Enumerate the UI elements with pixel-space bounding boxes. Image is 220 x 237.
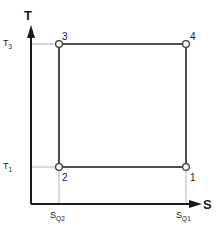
state-marker-2 <box>56 164 63 171</box>
tick-label-t1-sub: 1 <box>9 166 13 173</box>
s-axis-title: S <box>203 198 212 211</box>
guide-lines <box>31 44 186 204</box>
tick-label-t1-base: T <box>3 161 9 171</box>
state-marker-4 <box>183 41 190 48</box>
tick-label-sq2-sub: Q2 <box>56 215 65 222</box>
tick-label-t3: T3 <box>3 39 12 48</box>
state-markers <box>56 41 190 171</box>
state-label-1: 1 <box>190 173 196 183</box>
state-marker-1 <box>183 164 190 171</box>
s-axis-arrow-icon <box>189 200 202 208</box>
t-axis-arrow-icon <box>27 25 35 38</box>
tick-label-t1: T1 <box>3 162 12 171</box>
tick-label-sq2: SQ2 <box>50 211 65 220</box>
tick-label-t3-base: T <box>3 38 9 48</box>
state-label-3: 3 <box>62 32 68 42</box>
t-axis-title: T <box>24 9 32 22</box>
tick-label-t3-sub: 3 <box>9 43 13 50</box>
tick-label-sq1-sub: Q1 <box>182 215 191 222</box>
t-axis <box>27 25 35 204</box>
s-axis <box>31 200 202 208</box>
state-label-2: 2 <box>62 173 68 183</box>
state-label-4: 4 <box>190 32 196 42</box>
ts-diagram: T S T3 T1 SQ2 SQ1 3 4 2 1 <box>0 0 220 237</box>
diagram-canvas <box>0 0 220 237</box>
tick-label-sq1: SQ1 <box>176 211 191 220</box>
carnot-cycle-path <box>59 44 186 167</box>
